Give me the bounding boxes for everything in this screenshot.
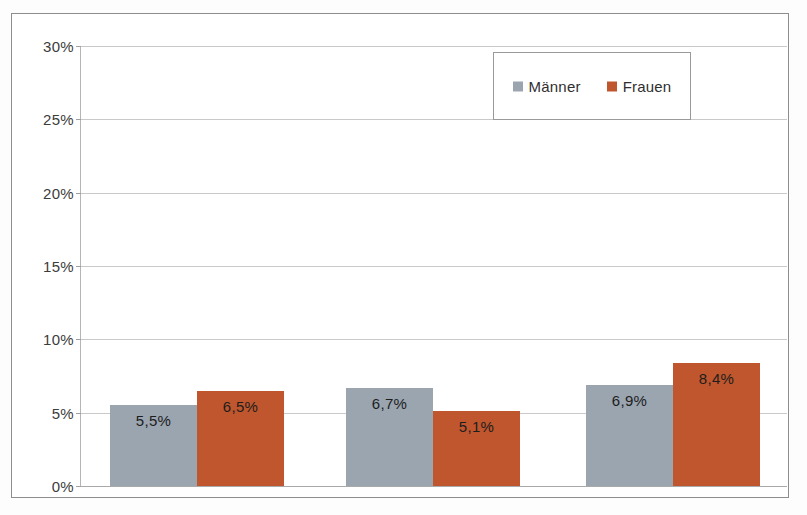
gridline-0	[80, 486, 787, 487]
y-axis-label: 10%	[18, 331, 74, 348]
bar-value-label: 8,4%	[673, 370, 760, 387]
chart-legend: MännerFrauen	[493, 52, 691, 120]
bar-frauen-1: 6,5%	[197, 391, 284, 486]
bar-value-label: 6,7%	[346, 395, 433, 412]
y-tick-mark	[76, 266, 81, 267]
legend-entries: MännerFrauen	[494, 78, 690, 95]
legend-label: Frauen	[623, 78, 672, 95]
maenner-swatch-icon	[513, 81, 523, 91]
bar-maenner-1: 5,5%	[110, 405, 197, 486]
y-tick-mark	[76, 46, 81, 47]
gridline-10	[80, 339, 787, 340]
y-tick-mark	[76, 413, 81, 414]
y-axis-label: 30%	[18, 38, 74, 55]
y-tick-mark	[76, 486, 81, 487]
frauen-swatch-icon	[607, 81, 617, 91]
y-tick-mark	[76, 193, 81, 194]
bar-value-label: 6,9%	[586, 392, 673, 409]
bar-maenner-3: 6,9%	[586, 385, 673, 486]
y-axis-label: 15%	[18, 258, 74, 275]
bar-value-label: 5,1%	[433, 418, 520, 435]
gridline-20	[80, 193, 787, 194]
legend-label: Männer	[529, 78, 581, 95]
bar-value-label: 5,5%	[110, 412, 197, 429]
y-axis-label: 0%	[18, 478, 74, 495]
chart-border-frame: 0%5%10%15%20%25%30% 5,5%6,5%6,7%5,1%6,9%…	[11, 13, 789, 498]
gridline-15	[80, 266, 787, 267]
bar-frauen-2: 5,1%	[433, 411, 520, 486]
bar-maenner-2: 6,7%	[346, 388, 433, 486]
y-tick-mark	[76, 119, 81, 120]
y-tick-mark	[76, 339, 81, 340]
bar-value-label: 6,5%	[197, 398, 284, 415]
legend-entry-maenner: Männer	[513, 78, 581, 95]
legend-entry-frauen: Frauen	[607, 78, 672, 95]
bar-frauen-3: 8,4%	[673, 363, 760, 486]
chart-screenshot: 0%5%10%15%20%25%30% 5,5%6,5%6,7%5,1%6,9%…	[0, 0, 807, 515]
y-axis-label: 25%	[18, 111, 74, 128]
gridline-30	[80, 46, 787, 47]
y-axis-label: 20%	[18, 184, 74, 201]
y-axis-label: 5%	[18, 404, 74, 421]
